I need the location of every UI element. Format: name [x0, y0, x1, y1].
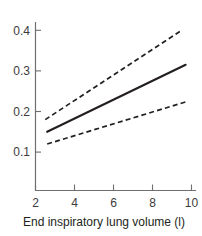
x-tick-label: 2 [32, 196, 39, 210]
line-chart: 0.4 0.3 0.2 0.1 2 4 6 8 10 End inspirato… [0, 0, 202, 236]
y-tick-label: 0.2 [13, 105, 30, 119]
y-tick-label: 0.4 [13, 24, 30, 38]
x-axis-tick-labels: 2 4 6 8 10 [32, 196, 198, 210]
series-line [47, 65, 185, 132]
y-tick-label: 0.3 [13, 64, 30, 78]
x-tick-label: 4 [71, 196, 78, 210]
y-tick-label: 0.1 [13, 145, 30, 159]
data-series-group [45, 30, 187, 144]
axis-spines [36, 22, 197, 191]
x-tick-label: 10 [185, 196, 199, 210]
x-axis-ticks [36, 185, 192, 191]
chart-figure: 0.4 0.3 0.2 0.1 2 4 6 8 10 End inspirato… [0, 0, 202, 236]
x-tick-label: 8 [149, 196, 156, 210]
x-axis-title: End inspiratory lung volume (l) [23, 215, 185, 229]
series-line [45, 30, 182, 119]
x-tick-label: 6 [110, 196, 117, 210]
y-axis-ticks [36, 30, 42, 152]
y-axis-tick-labels: 0.4 0.3 0.2 0.1 [13, 24, 30, 160]
